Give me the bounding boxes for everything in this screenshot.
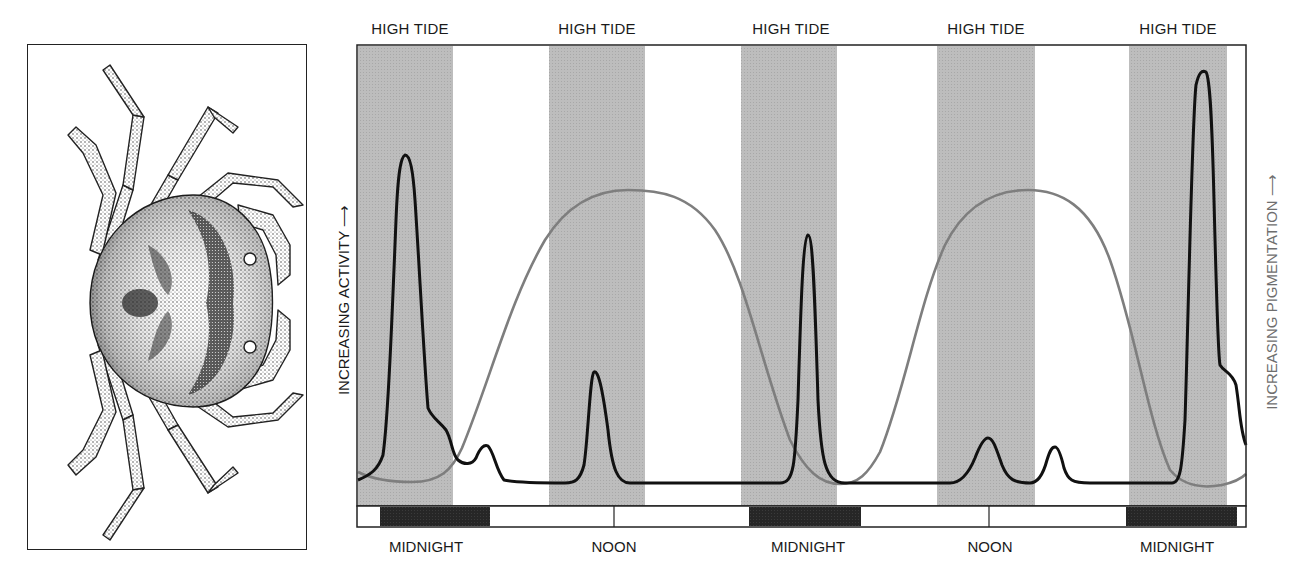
high-tide-band — [937, 46, 1035, 506]
arrow-up-icon: ⟶ — [335, 205, 352, 227]
right-axis-text: INCREASING PIGMENTATION — [1263, 200, 1280, 409]
day-night-bar — [357, 506, 1246, 527]
night-segment — [380, 507, 490, 526]
high-tide-label: HIGH TIDE — [371, 20, 448, 37]
midnight-label: MIDNIGHT — [389, 538, 463, 555]
right-axis-label: INCREASING PIGMENTATION ⟶ — [1263, 174, 1281, 410]
noon-label: NOON — [968, 538, 1013, 555]
high-tide-label: HIGH TIDE — [1139, 20, 1216, 37]
midnight-label: MIDNIGHT — [1140, 538, 1214, 555]
arrow-up-icon: ⟶ — [1263, 174, 1280, 196]
noon-label: NOON — [592, 538, 637, 555]
high-tide-label: HIGH TIDE — [947, 20, 1024, 37]
left-axis-label: INCREASING ACTIVITY ⟶ — [335, 205, 353, 395]
left-axis-text: INCREASING ACTIVITY — [335, 231, 352, 395]
high-tide-band — [549, 46, 645, 506]
night-segment — [1126, 507, 1237, 526]
activity-pigmentation-chart — [0, 0, 1298, 577]
night-segment — [749, 507, 861, 526]
high-tide-label: HIGH TIDE — [752, 20, 829, 37]
high-tide-band — [358, 46, 453, 506]
midnight-label: MIDNIGHT — [771, 538, 845, 555]
high-tide-bands — [358, 46, 1227, 506]
high-tide-label: HIGH TIDE — [558, 20, 635, 37]
